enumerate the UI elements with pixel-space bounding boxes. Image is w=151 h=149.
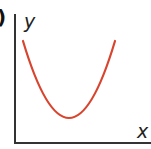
panel-label: ) xyxy=(0,5,6,29)
plot-svg: ) y x xyxy=(0,0,151,149)
parabola-curve xyxy=(23,41,115,118)
parabola-figure: ) y x xyxy=(0,0,151,149)
y-axis-label: y xyxy=(23,10,36,32)
x-axis-label: x xyxy=(136,120,149,142)
